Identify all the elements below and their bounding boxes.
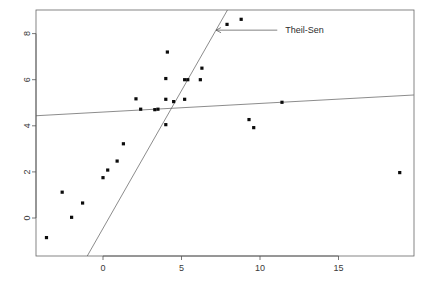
data-point [186,78,189,81]
theil-sen-label: Theil-Sen [285,25,324,35]
y-axis-tick-label: 2 [22,169,32,174]
x-axis-tick-label: 0 [100,263,105,273]
data-point [225,23,228,26]
data-point [45,236,48,239]
fit-line-ols [36,95,414,116]
y-axis-tick-label: 6 [22,77,32,82]
data-point [240,18,243,21]
data-point [166,50,169,53]
data-point [122,142,125,145]
data-point [134,97,137,100]
data-point [172,100,175,103]
data-point [139,108,142,111]
annotation-arrow-head [216,30,221,33]
data-points-group [45,18,401,239]
data-point [252,126,255,129]
data-point [280,101,283,104]
data-point [106,168,109,171]
data-point [156,108,159,111]
fit-line-theil-sen [87,10,227,256]
x-axis-tick-label: 10 [255,263,265,273]
y-axis-tick-label: 4 [22,123,32,128]
x-axis-tick-label: 15 [333,263,343,273]
data-point [247,118,250,121]
data-point [199,78,202,81]
data-point [183,98,186,101]
y-axis: 02468 [22,31,36,220]
scatter-plot-figure: 02468 051015 Theil-Sen [0,0,425,289]
data-point [70,216,73,219]
data-point [164,98,167,101]
x-axis: 051015 [100,256,343,273]
data-point [116,159,119,162]
data-point [61,191,64,194]
data-point [183,78,186,81]
data-point [200,67,203,70]
y-axis-tick-label: 8 [22,31,32,36]
data-point [398,171,401,174]
y-axis-tick-label: 0 [22,215,32,220]
plot-frame-box [36,10,414,256]
data-point [153,108,156,111]
annotation-group: Theil-Sen [216,25,324,35]
x-axis-tick-label: 5 [179,263,184,273]
data-point [81,201,84,204]
data-point [101,176,104,179]
data-point [164,77,167,80]
data-point [164,123,167,126]
plot-canvas: 02468 051015 Theil-Sen [0,0,425,289]
fit-lines-group [36,10,414,256]
